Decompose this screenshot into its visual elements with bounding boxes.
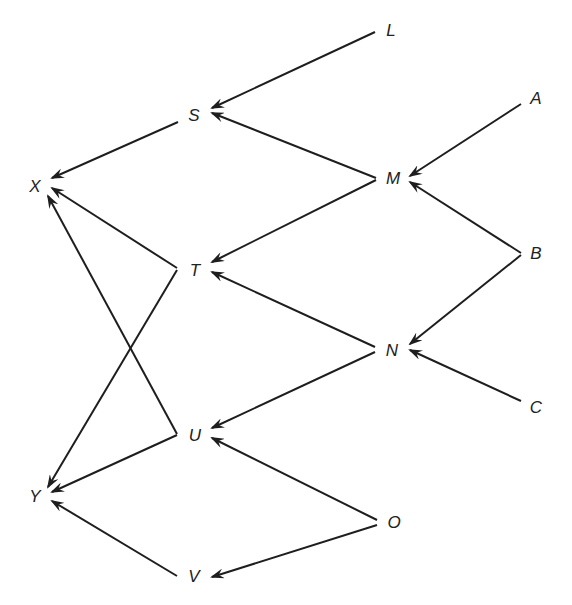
edge-group — [48, 32, 521, 577]
node-b: B — [530, 245, 541, 262]
edge-b-to-m — [410, 182, 521, 253]
edge-t-to-y — [48, 270, 177, 487]
edge-a-to-m — [410, 104, 521, 176]
edge-l-to-s — [212, 32, 375, 108]
edge-v-to-y — [52, 501, 177, 576]
graph-canvas: LASMXBTNCUYOV — [0, 0, 572, 605]
node-l: L — [386, 22, 395, 39]
edge-u-to-y — [52, 435, 177, 492]
edge-m-to-t — [212, 180, 376, 262]
edge-n-to-t — [212, 272, 375, 347]
edge-n-to-u — [212, 352, 375, 428]
node-t: T — [190, 262, 200, 279]
edge-b-to-n — [410, 255, 521, 344]
edge-t-to-x — [52, 188, 177, 268]
node-u: U — [189, 427, 201, 444]
graph-edges — [0, 0, 572, 605]
edge-o-to-u — [212, 438, 377, 520]
edge-o-to-v — [212, 525, 377, 577]
node-y: Y — [29, 488, 40, 505]
node-n: N — [386, 342, 398, 359]
node-x: X — [29, 178, 40, 195]
edge-s-to-x — [52, 122, 178, 178]
edge-c-to-n — [410, 350, 521, 401]
node-m: M — [386, 170, 400, 187]
edge-m-to-s — [212, 113, 376, 178]
node-v: V — [188, 568, 199, 585]
node-c: C — [530, 399, 542, 416]
node-s: S — [188, 107, 199, 124]
node-a: A — [530, 90, 541, 107]
node-o: O — [387, 514, 400, 531]
edge-u-to-x — [48, 196, 177, 434]
